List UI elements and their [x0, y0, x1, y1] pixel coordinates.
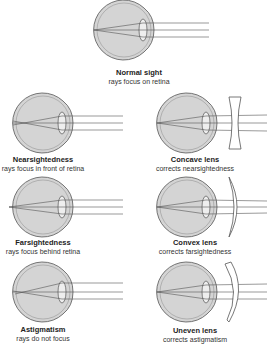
caption-subtitle: rays focus in front of retina — [0, 164, 86, 173]
caption-nearsightedness: Nearsightedness rays focus in front of r… — [0, 155, 86, 173]
caption-convex-lens: Convex lens corrects farsightedness — [150, 238, 240, 256]
eye-farsighted — [9, 177, 123, 237]
caption-normal: Normal sight rays focus on retina — [94, 68, 184, 86]
caption-subtitle: corrects nearsightedness — [150, 164, 240, 173]
caption-uneven-lens: Uneven lens corrects astigmatism — [150, 326, 240, 344]
caption-title: Convex lens — [150, 238, 240, 247]
caption-title: Concave lens — [150, 155, 240, 164]
caption-astigmatism: Astigmatism rays do not focus — [0, 325, 86, 343]
eye-convex-corrected — [157, 177, 267, 237]
caption-subtitle: corrects farsightedness — [150, 247, 240, 256]
caption-title: Nearsightedness — [0, 155, 86, 164]
caption-title: Astigmatism — [0, 325, 86, 334]
eye-astigmatism — [13, 262, 123, 322]
eye-normal — [94, 0, 209, 60]
caption-title: Farsightedness — [0, 238, 86, 247]
eye-uneven-corrected — [157, 262, 267, 322]
caption-subtitle: rays do not focus — [0, 334, 86, 343]
caption-title: Normal sight — [94, 68, 184, 77]
caption-farsightedness: Farsightedness rays focus behind retina — [0, 238, 86, 256]
caption-subtitle: rays focus on retina — [94, 77, 184, 86]
caption-concave-lens: Concave lens corrects nearsightedness — [150, 155, 240, 173]
eye-nearsighted — [13, 93, 123, 153]
eye-concave-corrected — [157, 93, 267, 153]
caption-title: Uneven lens — [150, 326, 240, 335]
caption-subtitle: rays focus behind retina — [0, 247, 86, 256]
caption-subtitle: corrects astigmatism — [150, 335, 240, 344]
